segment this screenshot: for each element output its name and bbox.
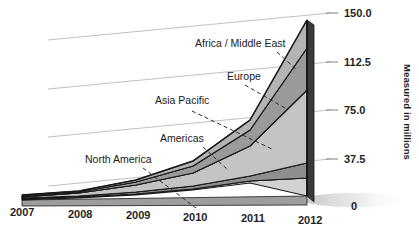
stacked-area-chart: 150.0 112.5 75.0 37.5 0 2007 2008 2009 2… — [0, 0, 419, 235]
y-tick-label-0: 0 — [351, 200, 357, 212]
y-tick-label-150: 150.0 — [344, 7, 372, 19]
x-tick-label-2011: 2011 — [241, 212, 265, 224]
series-label-north-america: North America — [85, 153, 152, 165]
x-tick-label-2010: 2010 — [183, 211, 207, 223]
series-label-europe: Europe — [227, 70, 261, 82]
chart-3d-side-wall — [307, 20, 314, 202]
x-tick-label-2007: 2007 — [10, 206, 34, 218]
x-tick-label-2008: 2008 — [68, 208, 92, 220]
gridline-150 — [48, 13, 330, 40]
x-tick-label-2012: 2012 — [298, 214, 322, 226]
y-tick-label-75: 75.0 — [344, 104, 365, 116]
chart-container: 150.0 112.5 75.0 37.5 0 2007 2008 2009 2… — [0, 0, 419, 235]
y-tick-label-37: 37.5 — [344, 153, 365, 165]
series-label-asia-pacific: Asia Pacific — [155, 94, 209, 106]
x-tick-labels: 2007 2008 2009 2010 2011 2012 — [10, 206, 322, 226]
series-label-africa-middle-east: Africa / Middle East — [195, 37, 286, 49]
series-label-americas: Americas — [160, 132, 204, 144]
y-axis — [326, 13, 338, 205]
y-tick-label-112: 112.5 — [344, 56, 371, 68]
x-tick-label-2009: 2009 — [126, 209, 150, 221]
y-tick-labels: 150.0 112.5 75.0 37.5 0 — [344, 7, 372, 212]
